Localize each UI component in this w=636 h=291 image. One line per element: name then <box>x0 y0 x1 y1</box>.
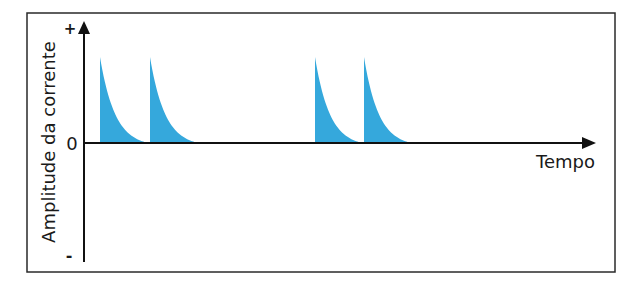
current-pulse <box>364 57 411 143</box>
current-pulse <box>315 57 362 143</box>
pulse-chart: + 0 - Tempo Amplitude da corrente <box>0 0 636 291</box>
x-axis-title: Tempo <box>535 151 595 172</box>
y-axis-title: Amplitude da corrente <box>38 41 59 243</box>
current-pulse <box>100 57 148 143</box>
y-plus-label: + <box>64 20 77 38</box>
y-axis-arrow-icon <box>78 21 90 34</box>
y-zero-label: 0 <box>66 133 77 154</box>
y-minus-label: - <box>66 246 73 265</box>
pulses-group <box>100 57 411 143</box>
x-axis-arrow-icon <box>582 137 596 149</box>
current-pulse <box>150 57 198 143</box>
